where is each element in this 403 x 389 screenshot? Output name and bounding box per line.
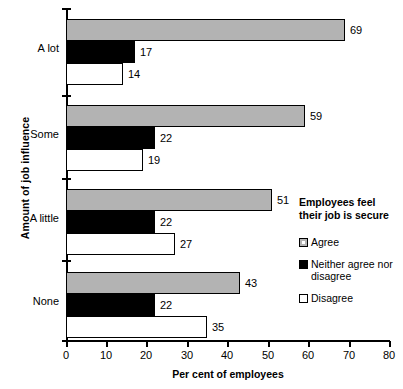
y-axis-tick bbox=[62, 8, 71, 10]
bar-some-neither bbox=[66, 127, 155, 149]
category-label-some: Some bbox=[0, 128, 59, 140]
x-axis-tick bbox=[308, 341, 310, 347]
x-axis-tick-label: 40 bbox=[212, 349, 242, 361]
bar-value-a-little-agree: 51 bbox=[277, 194, 289, 206]
x-axis-tick bbox=[146, 341, 148, 347]
bar-none-neither bbox=[66, 294, 155, 316]
bar-value-a-lot-agree: 69 bbox=[350, 24, 362, 36]
bar-a-lot-agree bbox=[66, 19, 345, 41]
bar-value-some-neither: 22 bbox=[160, 132, 172, 144]
bar-value-none-agree: 43 bbox=[245, 277, 257, 289]
legend-title-line2: their job is secure bbox=[299, 209, 389, 221]
bar-value-a-little-disagree: 27 bbox=[180, 238, 192, 250]
legend-item-disagree: Disagree bbox=[299, 292, 403, 305]
bar-value-some-agree: 59 bbox=[310, 110, 322, 122]
bar-none-disagree bbox=[66, 316, 207, 338]
x-axis-tick-label: 20 bbox=[131, 349, 161, 361]
x-axis-tick-label: 50 bbox=[253, 349, 283, 361]
category-label-none: None bbox=[0, 295, 59, 307]
legend-title: Employees feel their job is secure bbox=[299, 196, 403, 222]
x-axis-tick bbox=[389, 341, 391, 347]
x-axis-tick-label: 10 bbox=[91, 349, 121, 361]
legend-item-neither: Neither agree nor disagree bbox=[299, 258, 403, 283]
y-axis-tick bbox=[62, 260, 71, 262]
x-axis-tick-label: 0 bbox=[51, 349, 81, 361]
x-axis-tick bbox=[66, 341, 68, 347]
bar-value-some-disagree: 19 bbox=[148, 154, 160, 166]
legend-swatch-neither-icon bbox=[299, 260, 308, 269]
legend-label-neither: Neither agree nor disagree bbox=[311, 258, 403, 283]
bar-a-lot-disagree bbox=[66, 63, 123, 85]
bar-value-a-lot-neither: 17 bbox=[140, 46, 152, 58]
bar-a-lot-neither bbox=[66, 41, 135, 63]
x-axis-tick bbox=[187, 341, 189, 347]
category-label-a-little: A little bbox=[0, 212, 59, 224]
x-axis-tick-label: 80 bbox=[374, 349, 403, 361]
bar-some-agree bbox=[66, 105, 305, 127]
bar-value-none-neither: 22 bbox=[160, 299, 172, 311]
bar-a-little-neither bbox=[66, 211, 155, 233]
legend-label-agree: Agree bbox=[311, 236, 339, 249]
legend-swatch-disagree-icon bbox=[299, 294, 308, 303]
bar-a-little-agree bbox=[66, 189, 272, 211]
bar-value-a-lot-disagree: 14 bbox=[128, 68, 140, 80]
x-axis-tick bbox=[106, 341, 108, 347]
y-axis-title: Amount of job influence bbox=[19, 93, 31, 263]
x-axis-tick bbox=[227, 341, 229, 347]
category-label-a-lot: A lot bbox=[0, 42, 59, 54]
x-axis-tick-label: 70 bbox=[334, 349, 364, 361]
bar-some-disagree bbox=[66, 149, 143, 171]
x-axis-title: Per cent of employees bbox=[66, 368, 390, 380]
legend-label-disagree: Disagree bbox=[311, 292, 353, 305]
bar-value-none-disagree: 35 bbox=[212, 321, 224, 333]
x-axis-tick bbox=[349, 341, 351, 347]
legend-swatch-agree-icon bbox=[299, 238, 308, 247]
bar-value-a-little-neither: 22 bbox=[160, 216, 172, 228]
x-axis-tick-label: 30 bbox=[172, 349, 202, 361]
legend-title-line1: Employees feel bbox=[299, 196, 375, 208]
bar-a-little-disagree bbox=[66, 233, 175, 255]
y-axis-tick bbox=[62, 95, 71, 97]
y-axis-tick bbox=[62, 178, 71, 180]
legend-item-agree: Agree bbox=[299, 236, 403, 249]
bar-none-agree bbox=[66, 272, 240, 294]
chart-legend: Employees feel their job is secure Agree… bbox=[299, 196, 403, 313]
x-axis-tick-label: 60 bbox=[293, 349, 323, 361]
x-axis-tick bbox=[268, 341, 270, 347]
bar-chart: Amount of job influence 0 10 20 30 40 50… bbox=[0, 0, 403, 389]
